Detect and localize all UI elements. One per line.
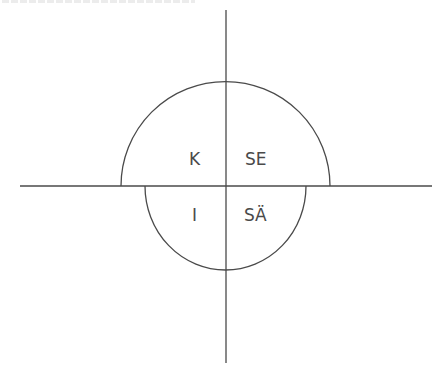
label-lower-left: I <box>192 205 197 225</box>
quadrant-diagram: K SE I SÄ <box>0 0 438 378</box>
label-upper-left: K <box>189 149 201 169</box>
label-lower-right: SÄ <box>244 205 267 225</box>
label-upper-right: SE <box>245 149 267 169</box>
